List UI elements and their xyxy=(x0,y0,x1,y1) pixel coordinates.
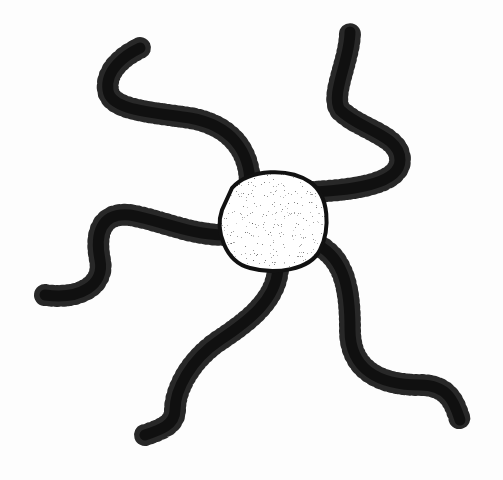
brittle-star-illustration xyxy=(0,0,503,480)
central-disc xyxy=(210,160,340,280)
